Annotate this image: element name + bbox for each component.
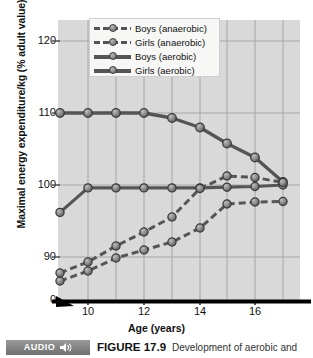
- x-axis-label: Age (years): [0, 322, 313, 334]
- x-tick-label-10: 10: [73, 305, 103, 317]
- audio-button[interactable]: AUDIO: [6, 340, 90, 355]
- figure-17-9: Maximal energy expenditure/kg (% adult v…: [0, 0, 313, 358]
- figure-number: FIGURE 17.9: [97, 341, 166, 353]
- legend-label-boys-anaerobic: Boys (anaerobic): [135, 23, 207, 34]
- legend-item-girls-anaerobic: Girls (anaerobic): [94, 36, 215, 49]
- legend-swatch-solid-icon: [94, 51, 131, 62]
- x-tick-label-12: 12: [129, 305, 159, 317]
- caption-text: Development of aerobic and: [172, 342, 297, 353]
- legend-label-girls-aerobic: Girls (aerobic): [135, 65, 195, 76]
- x-tick-label-14: 14: [185, 305, 215, 317]
- audio-label: AUDIO: [24, 342, 56, 352]
- speaker-icon: [59, 342, 72, 353]
- legend-label-girls-anaerobic: Girls (anaerobic): [135, 37, 205, 48]
- figure-caption: AUDIO FIGURE 17.9 Development of aerobic…: [0, 336, 313, 358]
- legend-swatch-dashed-icon: [94, 37, 131, 48]
- legend-item-boys-aerobic: Boys (aerobic): [94, 50, 215, 63]
- legend-swatch-solid-icon: [94, 65, 131, 76]
- legend-item-boys-anaerobic: Boys (anaerobic): [94, 22, 215, 35]
- x-tick-label-16: 16: [240, 305, 270, 317]
- legend-item-girls-aerobic: Girls (aerobic): [94, 64, 215, 77]
- chart-legend: Boys (anaerobic) Girls (anaerobic) Boys …: [89, 18, 220, 77]
- legend-swatch-dashed-icon: [94, 23, 131, 34]
- legend-label-boys-aerobic: Boys (aerobic): [135, 51, 196, 62]
